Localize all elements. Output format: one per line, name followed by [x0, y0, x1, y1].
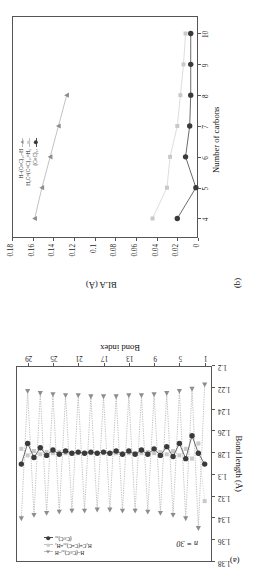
- square-data-point: [184, 32, 188, 36]
- square-data-point: [196, 441, 200, 445]
- triangle-data-point: [114, 394, 119, 399]
- circle-data-point: [170, 454, 175, 459]
- y-tick-label: 0.04: [153, 244, 160, 286]
- square-data-point: [165, 452, 169, 456]
- legend-label-a-0: H–(C≡C)₃₀–H: [55, 550, 84, 555]
- y-tick: [12, 238, 13, 241]
- x-tick-label: 29: [19, 354, 39, 361]
- circle-data-point: [57, 452, 62, 457]
- triangle-data-point: [126, 393, 131, 398]
- y-tick: [115, 238, 116, 241]
- triangle-data-point: [170, 513, 175, 518]
- y-tick: [212, 474, 215, 475]
- triangle-data-point: [133, 509, 138, 514]
- triangle-data-point: [82, 509, 87, 514]
- circle-data-point: [69, 451, 74, 456]
- circle-data-point: [164, 444, 169, 449]
- legend-item-a-0: H–(C≡C)₃₀–H: [44, 549, 128, 556]
- triangle-data-point: [202, 382, 207, 387]
- x-tick: [28, 363, 29, 366]
- y-tick: [198, 238, 199, 241]
- y-tick-label: 1.32: [218, 493, 256, 500]
- triangle-data-point: [164, 391, 169, 396]
- y-tick: [157, 238, 158, 241]
- circle-data-point: [107, 451, 112, 456]
- y-tick-label: 0: [194, 244, 201, 286]
- panel-a-plot-area: [16, 366, 212, 562]
- panel-b-series-layer: [13, 15, 199, 237]
- y-tick-label: 0.06: [132, 244, 139, 286]
- y-tick-label: 1.24: [218, 406, 256, 413]
- square-data-point: [175, 124, 179, 128]
- triangle-data-point: [196, 526, 201, 531]
- series-line-2: [177, 34, 196, 219]
- triangle-data-point: [158, 511, 163, 516]
- square-data-point: [182, 62, 186, 66]
- panel-a-series-layer: [15, 365, 211, 561]
- x-tick-label: 6: [203, 148, 210, 168]
- legend-item-b-1: H₂C=(C=C)₁₀=H₂: [25, 138, 32, 226]
- legend-label-b-0: H–(C≡C)₁₀–H: [19, 149, 24, 178]
- y-tick: [212, 539, 215, 540]
- x-tick: [198, 64, 201, 65]
- y-tick: [177, 238, 178, 241]
- panel-b-y-axis-label: BLA (Å): [86, 280, 117, 289]
- circle-data-point: [76, 449, 81, 454]
- circle-data-point: [50, 447, 55, 452]
- x-tick-label: 13: [120, 354, 140, 361]
- x-tick-label: 4: [203, 210, 210, 230]
- x-tick-label: 1: [196, 354, 216, 361]
- square-data-point: [190, 457, 194, 461]
- y-tick: [136, 238, 137, 241]
- triangle-data-point: [177, 389, 182, 394]
- circle-data-point: [113, 448, 118, 453]
- square-data-point: [26, 453, 30, 457]
- panel-a-x-axis-label: Bond index: [100, 343, 140, 352]
- y-tick-label: 1.36: [218, 537, 256, 544]
- circle-data-point: [175, 216, 180, 221]
- circle-data-point: [158, 453, 163, 458]
- y-tick-label: 1.2: [218, 363, 256, 370]
- square-marker-icon: [44, 542, 53, 549]
- x-tick-label: 8: [203, 86, 210, 106]
- panel-b-label: (b): [232, 278, 242, 288]
- panel-b-plot-area: [12, 16, 198, 238]
- x-tick-label: 5: [203, 179, 210, 199]
- circle-data-point: [94, 451, 99, 456]
- circle-data-point: [188, 62, 193, 67]
- panel-b-legend: H–(C≡C)₁₀–H H₂C=(C=C)₁₀=H₂ (C≡C)₁₀: [18, 138, 39, 226]
- y-tick: [95, 238, 96, 241]
- triangle-data-point: [145, 510, 150, 515]
- square-data-point: [151, 217, 155, 221]
- circle-data-point: [151, 446, 156, 451]
- panel-a-y-axis-label: Bond length (Å): [235, 436, 244, 492]
- panel-b: 00.020.040.060.080.10.120.140.160.18 456…: [0, 0, 256, 286]
- triangle-data-point: [139, 393, 144, 398]
- x-tick-label: 7: [203, 117, 210, 137]
- circle-data-point: [101, 449, 106, 454]
- triangle-data-point: [38, 391, 43, 396]
- square-data-point: [165, 186, 169, 190]
- square-data-point: [177, 453, 181, 457]
- circle-data-point: [132, 452, 137, 457]
- triangle-data-point: [25, 389, 30, 394]
- triangle-data-point: [69, 509, 74, 514]
- triangle-marker-icon: [44, 549, 53, 556]
- y-tick-label: 1.34: [218, 515, 256, 522]
- y-tick-label: 0.18: [8, 244, 15, 286]
- triangle-data-point: [19, 516, 24, 521]
- square-data-point: [178, 93, 182, 97]
- triangle-data-point: [151, 392, 156, 397]
- square-marker-icon: [25, 138, 32, 147]
- series-line-2: [21, 436, 204, 464]
- triangle-data-point: [44, 511, 49, 516]
- circle-marker-icon: [44, 535, 53, 542]
- legend-item-a-1: H₂C=(C=C)₃₀=H₂: [44, 542, 128, 549]
- series-line-1: [153, 34, 186, 219]
- legend-label-a-2: (C≡C)₃₀: [55, 536, 72, 541]
- circle-data-point: [177, 441, 182, 446]
- x-tick: [129, 363, 130, 366]
- square-data-point: [152, 451, 156, 455]
- y-tick: [212, 365, 215, 366]
- square-data-point: [32, 449, 36, 453]
